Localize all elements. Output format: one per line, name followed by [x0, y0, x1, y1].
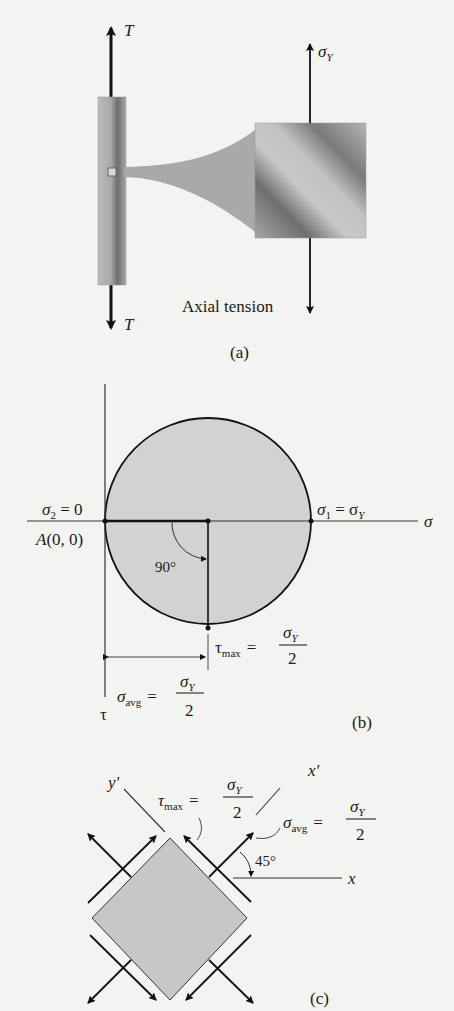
normal-arrow-ur [209, 833, 253, 877]
angle-arc-45 [240, 852, 251, 876]
zoom-callout-funnel [124, 130, 255, 232]
sigma-avg-leader [256, 828, 280, 839]
origin-label: A(0, 0) [35, 530, 83, 549]
tau-max-leader [197, 818, 201, 840]
normal-arrow-ll [88, 960, 131, 1003]
svg-text:σY: σY [227, 775, 243, 796]
force-bottom-label: T [124, 315, 135, 334]
point-sigma1 [309, 519, 314, 524]
normal-arrow-lr [209, 960, 253, 1003]
normal-arrow-ul [88, 834, 131, 877]
svg-text:σavg=: σavg= [283, 813, 323, 834]
element-marker [108, 168, 116, 176]
svg-text:σY: σY [283, 623, 299, 644]
sigma2-label: σ2 = 0 [42, 500, 82, 521]
mohr-circle-figure: T T σY Axial tension (a) σ2 = 0 A(0, 0) … [0, 0, 454, 1011]
panel-c-label: (c) [310, 989, 329, 1008]
x-axis-label: x [347, 869, 356, 888]
sigma-avg-equation-c: σavg= σY 2 [283, 797, 376, 844]
panel-b-label: (b) [352, 713, 372, 732]
figure-c: y′ x′ x 45° τmax= σY 2 σavg= σY 2 (c) [88, 761, 376, 1008]
figure-b: σ2 = 0 A(0, 0) σ1 = σY σ τ 90° τmax= σY … [27, 384, 433, 732]
point-a [103, 519, 108, 524]
shaft-bar [98, 97, 126, 285]
svg-text:2: 2 [233, 803, 242, 822]
force-top-label: T [124, 21, 135, 40]
svg-text:2: 2 [288, 649, 297, 668]
svg-text:τmax=: τmax= [158, 791, 199, 812]
tau-axis-label: τ [100, 705, 107, 724]
x-prime-label: x′ [307, 761, 320, 780]
figure-a: T T σY Axial tension (a) [98, 21, 366, 362]
tau-max-equation: τmax= σY 2 [215, 623, 307, 668]
svg-text:σY: σY [350, 797, 366, 818]
svg-text:2: 2 [356, 825, 365, 844]
svg-text:2: 2 [185, 701, 194, 720]
svg-text:σavg=: σavg= [117, 687, 157, 708]
sigma-axis-label: σ [424, 512, 433, 531]
panel-a-label: (a) [230, 343, 249, 362]
y-prime-label: y′ [106, 773, 120, 792]
point-tau-max [206, 626, 211, 631]
sigma1-label: σ1 = σY [317, 500, 366, 521]
sigma-avg-equation: σavg= σY 2 [117, 672, 204, 720]
tau-max-equation-c: τmax= σY 2 [158, 775, 253, 822]
yield-stress-label: σY [318, 42, 334, 63]
point-center [206, 519, 211, 524]
angle-45-label: 45° [255, 853, 276, 869]
angle-90-label: 90° [155, 559, 176, 575]
x-prime-axis [256, 788, 280, 815]
stress-element [255, 123, 366, 238]
axial-tension-caption: Axial tension [182, 297, 274, 316]
svg-text:τmax=: τmax= [215, 638, 256, 659]
svg-text:σY: σY [180, 672, 196, 693]
